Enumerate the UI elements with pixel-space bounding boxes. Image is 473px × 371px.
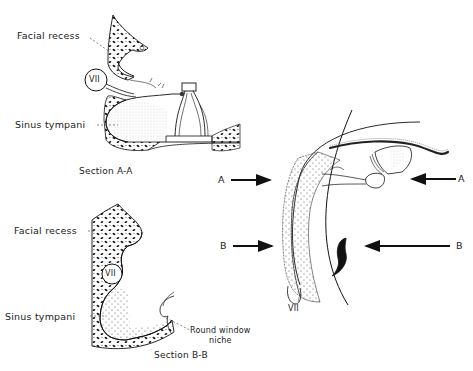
label-round-window-line1: Round window <box>190 326 251 335</box>
label-arrow-b-right: B <box>456 240 463 251</box>
clipped-text-right: ··· <box>458 0 467 4</box>
label-vii-overview: VII <box>288 304 299 313</box>
label-arrow-a-right: A <box>458 173 465 184</box>
caption-section-b: Section B-B <box>154 350 208 360</box>
caption-section-a: Section A-A <box>79 166 133 176</box>
label-round-window-line2: niche <box>209 336 232 345</box>
label-sinus-tympani-a: Sinus tympani <box>15 119 85 130</box>
anatomy-figure: ··· ··· ··· Facial recess VII Sinus tymp… <box>0 0 473 371</box>
label-arrow-b-left: B <box>220 240 227 251</box>
label-facial-recess-a: Facial recess <box>17 30 80 41</box>
label-facial-recess-b: Facial recess <box>14 225 77 236</box>
section-a-drawing <box>85 15 240 151</box>
label-arrow-a-left: A <box>218 174 225 185</box>
overview-drawing <box>231 110 456 305</box>
label-sinus-tympani-b: Sinus tympani <box>5 311 75 322</box>
section-b-drawing <box>88 204 190 349</box>
label-vii-a: VII <box>89 75 100 84</box>
clipped-text-left: ··· ··· <box>318 0 338 4</box>
label-vii-b: VII <box>105 269 116 278</box>
